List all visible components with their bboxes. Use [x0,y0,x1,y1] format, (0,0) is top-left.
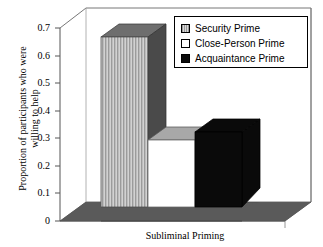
chart-legend: Security Prime Close-Person Prime Acquai… [174,16,308,68]
legend-swatch-black-icon [181,54,190,63]
legend-label-acquaintance-prime: Acquaintance Prime [195,53,285,64]
legend-label-security-prime: Security Prime [195,23,260,34]
bar-security-front-face [101,37,148,207]
legend-label-close-person-prime: Close-Person Prime [195,38,284,49]
chart-floor-right [242,202,311,221]
bar-acquaintance-front-face [195,132,242,207]
legend-item-security-prime: Security Prime [181,21,307,36]
y-axis-title: Proportion of participants who were will… [17,14,40,224]
legend-swatch-white-icon [181,39,190,48]
bar-closeperson-front-face [148,140,195,207]
chart-container: 0.7 0.6 0.5 0.4 0.3 0.2 0.1 0 Proportion… [0,0,323,247]
x-axis-title: Subliminal Priming [60,230,310,241]
legend-swatch-striped-icon [181,24,190,33]
y-axis-ticks [55,28,60,221]
legend-item-acquaintance-prime: Acquaintance Prime [181,51,307,66]
legend-item-close-person-prime: Close-Person Prime [181,36,307,51]
